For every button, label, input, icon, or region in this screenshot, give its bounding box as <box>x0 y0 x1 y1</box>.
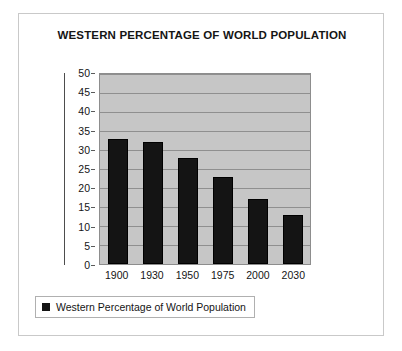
bar[interactable] <box>108 139 128 264</box>
y-tick-label: 20 <box>78 182 90 194</box>
plot-wrapper: 05101520253035404550 1900193019501975200… <box>99 73 311 265</box>
y-tick-label: 10 <box>78 221 90 233</box>
bar[interactable] <box>143 142 163 264</box>
y-tick-mark <box>91 73 95 74</box>
x-tick-label: 1975 <box>206 269 240 281</box>
y-tick-mark <box>91 92 95 93</box>
y-tick-label: 5 <box>84 240 90 252</box>
y-tick-label: 30 <box>78 144 90 156</box>
bar[interactable] <box>178 158 198 264</box>
x-tick-label: 1950 <box>170 269 204 281</box>
legend-swatch-icon <box>42 303 50 311</box>
y-tick-label: 25 <box>78 163 90 175</box>
y-tick-label: 50 <box>78 67 90 79</box>
bar[interactable] <box>283 215 303 264</box>
bar-series <box>100 74 310 264</box>
y-tick-mark <box>91 265 95 266</box>
y-tick-mark <box>91 131 95 132</box>
y-tick-label: 35 <box>78 125 90 137</box>
legend: Western Percentage of World Population <box>35 296 255 318</box>
x-tick-label: 1930 <box>135 269 169 281</box>
y-axis: 05101520253035404550 <box>65 73 95 265</box>
plot-area <box>99 73 311 265</box>
x-tick-label: 2030 <box>276 269 310 281</box>
y-tick-mark <box>91 227 95 228</box>
x-axis-tick-labels: 190019301950197520002030 <box>99 269 311 281</box>
y-tick-mark <box>91 111 95 112</box>
bar[interactable] <box>248 199 268 264</box>
y-tick-label: 0 <box>84 259 90 271</box>
y-tick-mark <box>91 188 95 189</box>
y-tick-mark <box>91 246 95 247</box>
y-axis-line <box>64 73 65 265</box>
chart-title: WESTERN PERCENTAGE OF WORLD POPULATION <box>19 29 385 41</box>
x-tick-label: 1900 <box>100 269 134 281</box>
y-tick-label: 40 <box>78 105 90 117</box>
y-tick-mark <box>91 207 95 208</box>
x-tick-label: 2000 <box>241 269 275 281</box>
bar[interactable] <box>213 177 233 264</box>
y-tick-label: 15 <box>78 201 90 213</box>
chart-frame: WESTERN PERCENTAGE OF WORLD POPULATION 0… <box>18 13 384 336</box>
y-tick-mark <box>91 169 95 170</box>
y-tick-mark <box>91 150 95 151</box>
legend-label: Western Percentage of World Population <box>56 301 246 313</box>
y-tick-label: 45 <box>78 86 90 98</box>
